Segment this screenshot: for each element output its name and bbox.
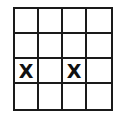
grid-cell[interactable] <box>87 34 111 59</box>
grid-cell-x[interactable]: X <box>63 59 87 84</box>
grid-cell[interactable] <box>39 9 63 34</box>
grid-cell[interactable] <box>15 84 39 109</box>
grid-cell[interactable] <box>63 9 87 34</box>
grid-cell-x[interactable]: X <box>15 59 39 84</box>
grid-cell[interactable] <box>15 34 39 59</box>
grid-cell[interactable] <box>87 84 111 109</box>
grid-cell[interactable] <box>63 84 87 109</box>
grid-cell[interactable] <box>87 59 111 84</box>
grid-cell[interactable] <box>15 9 39 34</box>
grid-cell[interactable] <box>39 84 63 109</box>
grid-cell[interactable] <box>39 59 63 84</box>
grid-cell[interactable] <box>39 34 63 59</box>
game-grid: X X <box>13 7 113 111</box>
grid-cell[interactable] <box>87 9 111 34</box>
grid-cell[interactable] <box>63 34 87 59</box>
